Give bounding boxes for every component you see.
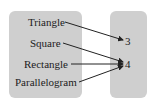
range-item-3: 3 [125, 36, 131, 47]
domain-item-parallelogram: Parallelogram [15, 77, 77, 88]
domain-item-rectangle: Rectangle [24, 59, 68, 70]
range-set-box [110, 11, 147, 98]
domain-item-triangle: Triangle [28, 17, 65, 28]
domain-item-square: Square [30, 38, 61, 49]
range-item-4: 4 [125, 59, 131, 70]
